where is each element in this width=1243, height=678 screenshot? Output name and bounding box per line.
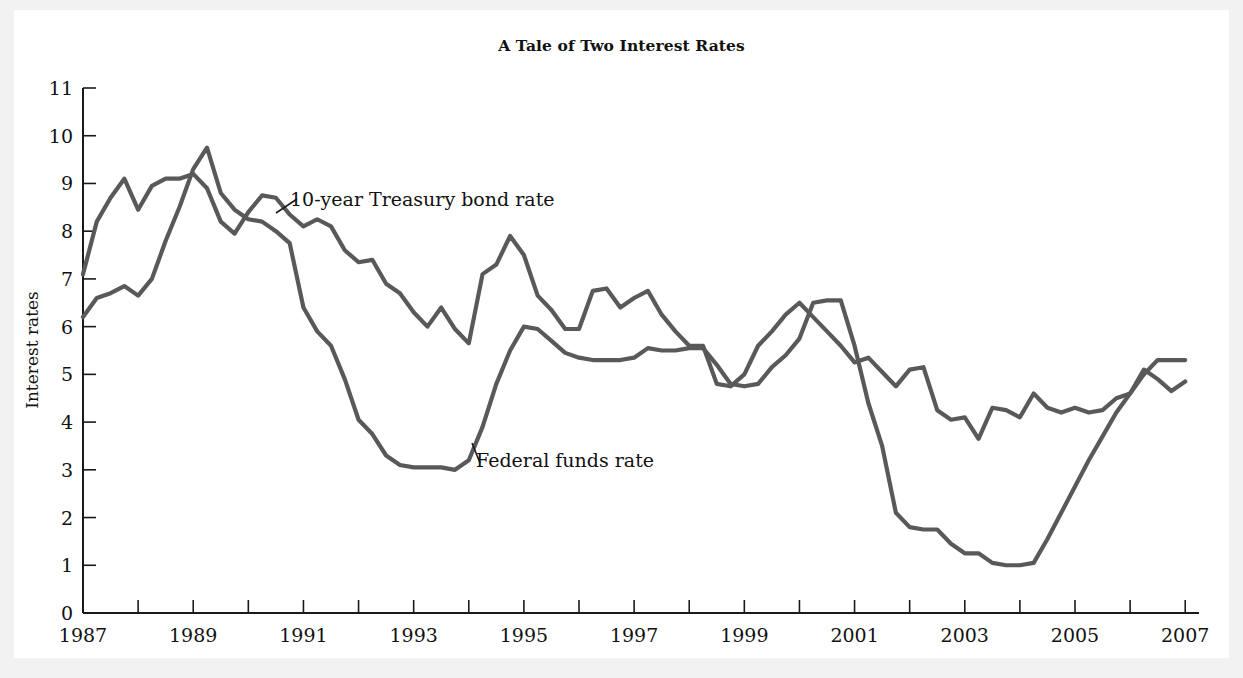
x-axis-ticks bbox=[83, 600, 1185, 613]
y-tick-label: 2 bbox=[61, 507, 73, 529]
y-axis-ticks bbox=[83, 88, 96, 613]
y-tick-label: 1 bbox=[61, 554, 73, 576]
y-tick-label: 0 bbox=[61, 602, 73, 624]
y-tick-label: 4 bbox=[61, 411, 73, 433]
y-tick-label: 9 bbox=[61, 172, 73, 194]
x-tick-label: 2005 bbox=[1051, 624, 1099, 646]
y-tick-label: 5 bbox=[61, 363, 73, 385]
y-axis-title: Interest rates bbox=[22, 291, 42, 409]
x-tick-label: 1999 bbox=[720, 624, 768, 646]
x-tick-label: 2003 bbox=[941, 624, 989, 646]
x-axis-tick-labels: 1987198919911993199519971999200120032005… bbox=[59, 624, 1210, 646]
y-axis-tick-labels: 01234567891011 bbox=[49, 77, 73, 624]
chart-plate: A Tale of Two Interest Rates 01234567891… bbox=[14, 10, 1229, 658]
series-line-treasury bbox=[83, 174, 1185, 439]
x-tick-label: 2007 bbox=[1161, 624, 1209, 646]
annotation-fedfunds-label: Federal funds rate bbox=[476, 449, 654, 471]
figure-root: A Tale of Two Interest Rates 01234567891… bbox=[0, 0, 1243, 678]
x-tick-label: 1989 bbox=[169, 624, 217, 646]
y-tick-label: 8 bbox=[61, 220, 73, 242]
y-tick-label: 11 bbox=[49, 77, 73, 99]
annotation-treasury-label: 10-year Treasury bond rate bbox=[290, 188, 555, 210]
x-tick-label: 1995 bbox=[500, 624, 548, 646]
y-tick-label: 3 bbox=[61, 459, 73, 481]
y-tick-label: 10 bbox=[49, 125, 73, 147]
x-tick-label: 1987 bbox=[59, 624, 107, 646]
y-tick-label: 7 bbox=[61, 268, 73, 290]
x-tick-label: 1991 bbox=[279, 624, 327, 646]
y-tick-label: 6 bbox=[61, 316, 73, 338]
x-tick-label: 2001 bbox=[830, 624, 878, 646]
chart-plot-area: 01234567891011 1987198919911993199519971… bbox=[14, 10, 1229, 658]
x-tick-label: 1997 bbox=[610, 624, 658, 646]
x-tick-label: 1993 bbox=[389, 624, 437, 646]
data-series-group bbox=[83, 148, 1185, 566]
